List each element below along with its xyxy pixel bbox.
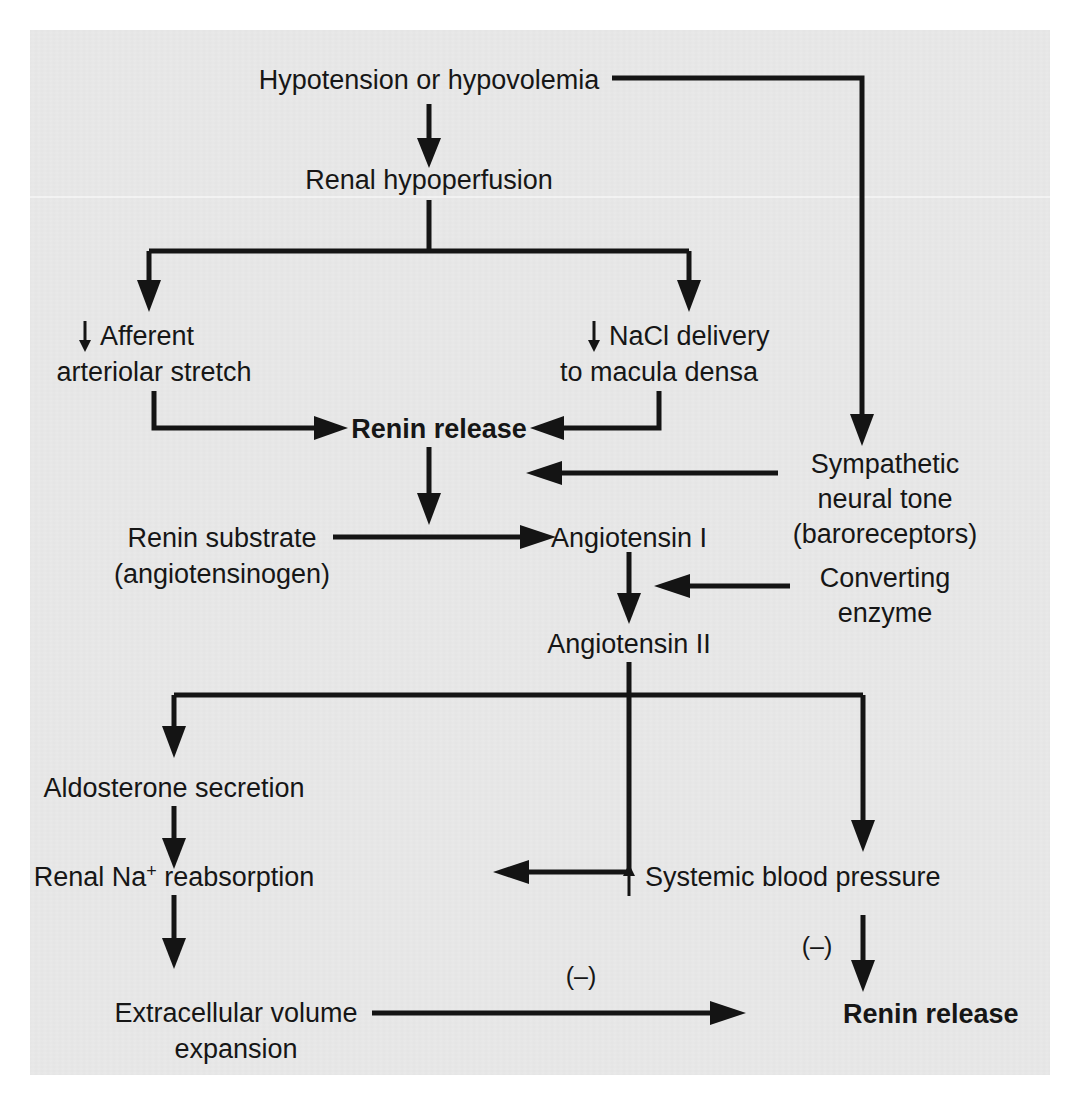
node-renal-na-reabsorption: Renal Na+ reabsorption: [34, 861, 315, 892]
node-renin-release-top: Renin release: [351, 414, 527, 444]
node-sympathetic-neural-tone-line1: Sympathetic: [811, 449, 960, 479]
node-renin-substrate-line2: (angiotensinogen): [114, 559, 330, 589]
renal-na-suffix: reabsorption: [157, 862, 315, 892]
figure-root: Hypotension or hypovolemia Renal hypoper…: [0, 0, 1065, 1104]
node-converting-enzyme-line1: Converting: [820, 563, 951, 593]
decrease-tick-nacl: [588, 321, 600, 352]
node-converting-enzyme-line2: enzyme: [838, 598, 933, 628]
edge-renal-na-to-ecf-expansion: [162, 895, 186, 969]
node-renin-substrate-line1: Renin substrate: [127, 523, 316, 553]
node-renal-hypoperfusion: Renal hypoperfusion: [305, 165, 553, 195]
node-afferent-arteriolar-stretch-line1: Afferent: [100, 321, 195, 351]
edge-renin-release-to-angiotensin-i: [417, 447, 441, 525]
edge-renin-substrate-to-angiotensin-i: [333, 525, 556, 549]
edge-systemic-bp-to-renin-release: [851, 915, 875, 992]
decrease-tick-afferent: [79, 321, 91, 352]
renal-na-prefix: Renal Na: [34, 862, 148, 892]
node-afferent-arteriolar-stretch-line2: arteriolar stretch: [56, 357, 251, 387]
edge-renal-hypoperfusion-split: [137, 200, 701, 312]
node-hypotension-or-hypovolemia: Hypotension or hypovolemia: [259, 65, 601, 95]
node-aldosterone-secretion: Aldosterone secretion: [43, 773, 304, 803]
edge-converting-enzyme-to-conversion: [654, 574, 790, 598]
edge-hypotension-to-renal-hypoperfusion: [417, 104, 441, 168]
edge-aldosterone-to-renal-na-reabsorption: [162, 806, 186, 869]
annotation-negative-feedback-left: (–): [566, 962, 597, 990]
node-extracellular-volume-expansion-line1: Extracellular volume: [114, 998, 357, 1028]
node-angiotensin-i: Angiotensin I: [551, 523, 707, 553]
edge-ecf-expansion-to-renin-release: [372, 1001, 746, 1025]
node-renin-release-bottom: Renin release: [843, 999, 1019, 1029]
edge-hypotension-to-sympathetic-neural-tone: [612, 78, 874, 446]
node-extracellular-volume-expansion-line2: expansion: [174, 1034, 297, 1064]
node-angiotensin-ii: Angiotensin II: [547, 629, 711, 659]
edge-afferent-to-renin-release: [154, 391, 348, 440]
node-nacl-delivery-line1: NaCl delivery: [609, 321, 770, 351]
edge-nacl-to-renin-release: [530, 391, 659, 440]
node-sympathetic-neural-tone-line3: (baroreceptors): [793, 519, 978, 549]
edge-sympathetic-to-renin-release: [526, 461, 778, 485]
node-sympathetic-neural-tone-line2: neural tone: [817, 484, 952, 514]
flowchart-canvas: Hypotension or hypovolemia Renal hypoper…: [0, 0, 1065, 1104]
node-nacl-delivery-line2: to macula densa: [560, 357, 759, 387]
increase-tick-systemic-bp: [623, 864, 635, 896]
edge-angiotensin-i-to-angiotensin-ii: [617, 552, 641, 624]
annotation-negative-feedback-right: (–): [802, 932, 833, 960]
node-systemic-blood-pressure: Systemic blood pressure: [645, 862, 941, 892]
renal-na-superscript: +: [146, 861, 157, 881]
